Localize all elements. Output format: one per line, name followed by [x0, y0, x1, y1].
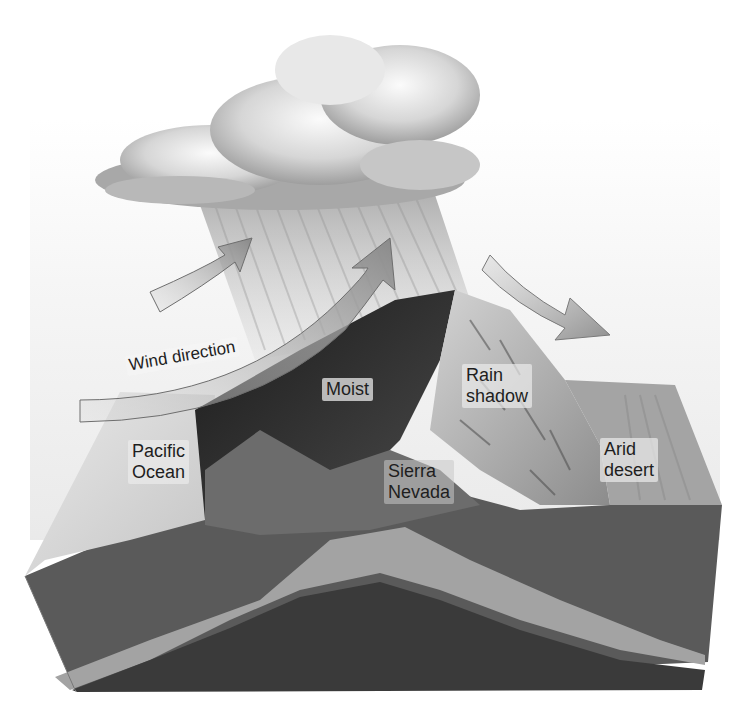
arid-desert-label: Arid desert — [600, 438, 658, 482]
pacific-ocean-label: Pacific Ocean — [128, 440, 189, 484]
moist-label: Moist — [322, 378, 373, 401]
sierra-nevada-label: Sierra Nevada — [384, 460, 454, 504]
diagram-artwork — [0, 0, 749, 714]
rain-shadow-label: Rain shadow — [462, 364, 532, 408]
rain-shadow-diagram: Wind direction Pacific Ocean Moist Rain … — [0, 0, 749, 714]
